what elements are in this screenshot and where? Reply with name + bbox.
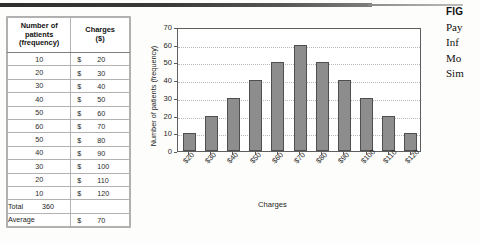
top-horizontal-rule: [0, 3, 372, 7]
y-axis-tick-label: 60: [156, 41, 172, 50]
x-axis-tick-label: $40: [225, 150, 240, 165]
charge-amount: 80: [97, 135, 105, 144]
cell-frequency: 50: [8, 106, 71, 119]
cell-charge: $20: [71, 53, 130, 66]
header-charges-line-2: ($): [73, 35, 127, 44]
cell-charge: $90: [71, 146, 130, 159]
table-row-total: Total360: [8, 200, 130, 213]
charge-amount: 40: [97, 81, 105, 90]
average-label: Average: [8, 213, 71, 226]
charge-amount: 120: [97, 189, 109, 198]
cell-frequency: 40: [8, 146, 71, 159]
cell-charge: $110: [71, 173, 130, 186]
cell-frequency: 30: [8, 79, 71, 92]
currency-symbol: $: [77, 122, 81, 131]
bar: [271, 62, 284, 151]
total-charge-blank: [71, 200, 130, 213]
currency-symbol: $: [77, 135, 81, 144]
charge-amount: 20: [97, 55, 105, 64]
currency-symbol: $: [77, 162, 81, 171]
caption-line: Inf: [446, 35, 480, 51]
frequency-charges-table: Number of patients (frequency) Charges (…: [7, 17, 130, 227]
currency-symbol: $: [77, 81, 81, 90]
header-number-of-patients: Number of patients (frequency): [8, 18, 71, 53]
bar: [249, 80, 262, 151]
cell-charge: $120: [71, 186, 130, 199]
total-label: Total360: [8, 200, 71, 213]
bar: [183, 133, 196, 151]
cell-frequency: 10: [8, 53, 71, 66]
caption-line: Sim: [446, 66, 480, 82]
currency-symbol: $: [77, 189, 81, 198]
cell-charge: $40: [71, 79, 130, 92]
figure-caption: FIG PayInfMoSim: [446, 4, 480, 82]
charge-amount: 30: [97, 68, 105, 77]
y-axis-tick-label: 70: [156, 23, 172, 32]
x-axis-tick-label: $20: [181, 150, 196, 165]
cell-charge: $70: [71, 119, 130, 132]
charge-amount: 60: [97, 108, 105, 117]
x-axis-tick-label: $70: [292, 150, 307, 165]
y-axis-tick-label: 10: [156, 129, 172, 138]
table-row: 40$90: [8, 146, 130, 159]
y-axis-tick-label: 50: [156, 58, 172, 67]
cell-frequency: 20: [8, 66, 71, 79]
average-amount: 70: [97, 215, 105, 224]
cell-frequency: 30: [8, 160, 71, 173]
cell-frequency: 40: [8, 93, 71, 106]
charge-amount: 50: [97, 95, 105, 104]
cell-charge: $30: [71, 66, 130, 79]
table-body: 10$2020$3030$4040$5050$6060$7050$8040$90…: [8, 53, 130, 227]
bar: [382, 116, 395, 151]
caption-lines: PayInfMoSim: [446, 20, 480, 82]
caption-line: Pay: [446, 20, 480, 36]
x-axis-tick-label: $50: [248, 150, 263, 165]
x-axis-title: Charges: [258, 200, 287, 209]
currency-symbol: $: [77, 95, 81, 104]
y-axis-tick-label: 20: [156, 112, 172, 121]
table-header-row: Number of patients (frequency) Charges (…: [8, 18, 130, 53]
bar: [360, 98, 373, 151]
x-axis-tick-label: $90: [336, 150, 351, 165]
figure-label: FIG: [446, 4, 480, 20]
bar: [227, 98, 240, 151]
cell-frequency: 50: [8, 133, 71, 146]
cell-frequency: 10: [8, 186, 71, 199]
caption-line: Mo: [446, 51, 480, 67]
table-row: 10$20: [8, 53, 130, 66]
bar: [338, 80, 351, 151]
cell-frequency: 60: [8, 119, 71, 132]
charge-amount: 100: [97, 162, 109, 171]
table-row-average: Average$70: [8, 213, 130, 226]
y-axis-tick-label: 0: [156, 147, 172, 156]
table-row: 20$30: [8, 66, 130, 79]
table-row: 60$70: [8, 119, 130, 132]
table-row: 40$50: [8, 93, 130, 106]
y-axis-tick-label: 40: [156, 76, 172, 85]
table-row: 50$60: [8, 106, 130, 119]
bar: [316, 62, 329, 151]
x-axis-tick-label: $30: [203, 150, 218, 165]
cell-charge: $100: [71, 160, 130, 173]
currency-symbol: $: [77, 175, 81, 184]
table-row: 30$40: [8, 79, 130, 92]
table-row: 10$120: [8, 186, 130, 199]
currency-symbol: $: [77, 55, 81, 64]
total-value: 360: [42, 202, 54, 211]
currency-symbol: $: [77, 108, 81, 117]
cell-charge: $50: [71, 93, 130, 106]
y-axis-tick-label: 30: [156, 94, 172, 103]
cell-charge: $80: [71, 133, 130, 146]
header-line-3: (frequency): [10, 39, 68, 48]
cell-frequency: 20: [8, 173, 71, 186]
currency-symbol: $: [77, 215, 81, 224]
plot-area: [177, 28, 421, 152]
currency-symbol: $: [77, 148, 81, 157]
table-row: 20$110: [8, 173, 130, 186]
table-row: 30$100: [8, 160, 130, 173]
histogram-chart: Number of patients (frequency) 010203040…: [140, 14, 428, 229]
charge-amount: 110: [97, 175, 108, 184]
bar: [294, 45, 307, 151]
x-axis-tick-label: $80: [314, 150, 329, 165]
charge-amount: 90: [97, 148, 105, 157]
